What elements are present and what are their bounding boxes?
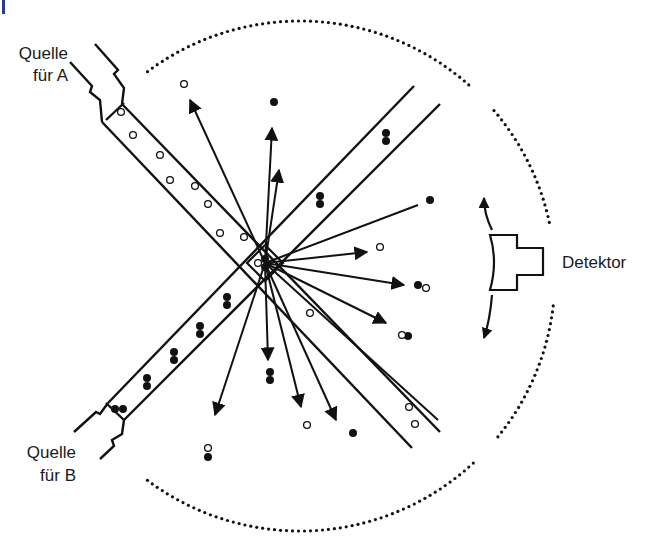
chamber-dot [151, 482, 154, 485]
chamber-dot [526, 390, 529, 393]
chamber-dot [413, 502, 416, 505]
chamber-dot [303, 19, 306, 22]
chamber-dot [156, 486, 159, 489]
chamber-dot [434, 491, 437, 494]
chamber-dot [249, 525, 252, 528]
chamber-dot [255, 526, 258, 529]
chamber-dot [551, 310, 554, 313]
chamber-dot [548, 221, 551, 224]
trajectory-arrow [265, 263, 438, 420]
chamber-dot [407, 44, 410, 47]
atom-b [170, 356, 178, 364]
chamber-dot [523, 154, 526, 157]
chamber-dot [540, 357, 543, 360]
chamber-dot [444, 484, 447, 487]
chamber-dot [327, 21, 330, 24]
chamber-dot [226, 30, 229, 33]
chamber-dot [504, 123, 507, 126]
chamber-dot [309, 529, 312, 532]
chamber-dot [368, 520, 371, 523]
atom-b [196, 330, 204, 338]
chamber-dot [510, 416, 513, 419]
chamber-dot [549, 322, 552, 325]
atom-b [143, 374, 151, 382]
atom-a [167, 177, 174, 184]
chamber-dot [339, 23, 342, 26]
label-detector: Detektor [562, 253, 627, 272]
atom-a [399, 332, 406, 339]
atom-a [130, 132, 137, 139]
chamber-dot [156, 63, 159, 66]
chamber-dot [333, 22, 336, 25]
chamber-dot [215, 34, 218, 37]
atom-a [307, 310, 314, 317]
chamber-dot [514, 411, 517, 414]
chamber-dot [146, 70, 149, 73]
chamber-dot [192, 43, 195, 46]
chamber-dot [407, 505, 410, 508]
detector [484, 198, 543, 338]
atom-b [266, 376, 274, 384]
atom-b [382, 137, 390, 145]
chamber-dot [402, 41, 405, 44]
chamber-dot [285, 20, 288, 23]
chamber-dot [220, 32, 223, 35]
chamber-dot [423, 52, 426, 55]
chamber-dot [297, 19, 300, 22]
chamber-dot [203, 38, 206, 41]
chamber-dot [209, 513, 212, 516]
chamber-dot [327, 528, 330, 531]
atom-a [241, 234, 248, 241]
chamber-dot [176, 498, 179, 501]
chamber-dot [402, 508, 405, 511]
atom-b [270, 98, 278, 106]
atom-a [118, 109, 125, 116]
atom-b [223, 301, 231, 309]
atom-b [196, 322, 204, 330]
chamber-dot [510, 133, 513, 136]
source-a-nozzle-bottom [70, 62, 102, 122]
chamber-dot [385, 35, 388, 38]
chamber-dot [297, 529, 300, 532]
atom-a [412, 421, 419, 428]
chamber-dot [500, 118, 503, 121]
chamber-dot [309, 20, 312, 23]
chamber-dot [261, 527, 264, 530]
chamber-dot [291, 20, 294, 23]
chamber-dot [467, 466, 470, 469]
detector-rotate-up-arrow [484, 198, 492, 230]
chamber-dot [467, 83, 470, 86]
chamber-dot [238, 522, 241, 525]
chamber-dot [215, 515, 218, 518]
chamber-dot [232, 521, 235, 524]
chamber-dot [523, 395, 526, 398]
chamber-dot [444, 65, 447, 68]
atom-a [192, 183, 199, 190]
chamber-dot [226, 519, 229, 522]
chamber-dot [243, 523, 246, 526]
chamber-dot [472, 462, 475, 465]
chamber-dot [267, 21, 270, 24]
chamber-dot [238, 27, 241, 30]
chamber-dot [504, 426, 507, 429]
chamber-dot [171, 495, 174, 498]
atom-b [426, 196, 434, 204]
chamber-dot [418, 49, 421, 52]
atom-a [157, 152, 164, 159]
chamber-dot [198, 509, 201, 512]
chamber-dot [528, 385, 531, 388]
detector-body [490, 235, 543, 290]
atom-b [349, 429, 357, 437]
chamber-dot [500, 431, 503, 434]
atom-b [316, 192, 324, 200]
chamber-dot [315, 20, 318, 23]
chamber-dot [161, 60, 164, 63]
atom-b [316, 200, 324, 208]
chamber-dot [550, 316, 553, 319]
chamber-dot [380, 33, 383, 36]
atom-a [377, 244, 384, 251]
chamber-dot [187, 504, 190, 507]
chamber-dot [458, 473, 461, 476]
chamber-dot [463, 469, 466, 472]
chamber-dot [453, 477, 456, 480]
